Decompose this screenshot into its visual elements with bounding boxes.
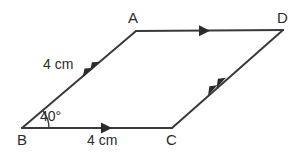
arrow-tick-ad-icon: [199, 25, 210, 36]
vertex-label-b: B: [17, 132, 27, 147]
arrow-tick-ba-2-icon: [90, 62, 100, 72]
diagram-canvas: A B C D 4 cm 4 cm 40°: [0, 0, 299, 155]
vertex-label-c: C: [166, 132, 177, 147]
parallelogram-figure: [0, 0, 299, 155]
vertex-label-d: D: [277, 10, 288, 25]
side-length-label-bc: 4 cm: [87, 133, 117, 147]
angle-label-b: 40°: [40, 109, 61, 123]
side-length-label-ba: 4 cm: [43, 57, 73, 71]
edge-cd: [172, 30, 283, 128]
vertex-label-a: A: [128, 10, 138, 25]
